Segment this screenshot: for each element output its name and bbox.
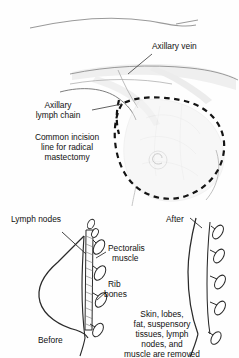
label-lymph-nodes: Lymph nodes [11,215,61,225]
axillary-artery-path [70,80,172,85]
before-abdomen-line [80,338,85,356]
axillary-lymph-chain-leader [92,104,122,110]
label-before: Before [38,336,63,346]
mastectomy-figure: Axillary vein Axillary lymph chain Commo… [0,0,239,358]
breast-tissue-shading [124,99,224,201]
figure-canvas [0,0,239,358]
label-incision-line3: mastectomy [12,153,122,163]
label-after: After [166,215,184,225]
torso-contour-left [132,186,136,206]
clavicle-tip [176,20,198,24]
before-breast-contour [39,236,88,338]
label-axillary-lymph-chain-line2: lymph chain [22,111,94,121]
label-rib-line2: bones [104,290,127,300]
before-pectoralis-strip [85,230,93,330]
label-axillary-vein: Axillary vein [152,42,197,52]
label-removed-line5: muscle are removed [110,350,214,358]
after-ribs [209,223,228,346]
lymph-nodes-leader [62,232,86,254]
label-pectoralis-line2: muscle [112,254,139,264]
clavicle-contour [30,18,196,28]
